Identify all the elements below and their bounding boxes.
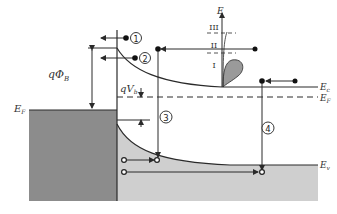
valence-band-region: [117, 124, 318, 201]
svg-text:2: 2: [142, 55, 147, 64]
conduction-band-label: Ec: [319, 82, 331, 93]
region-I-label: I: [212, 61, 215, 70]
band-diagram: qΦB qVb 1 2 3 4 E III II I EF Ec EF Ev: [0, 0, 337, 214]
builtin-potential-label: qVb: [120, 83, 138, 95]
energy-axis-label: E: [216, 6, 224, 16]
svg-text:1: 1: [133, 35, 138, 44]
electron-4-source: [293, 79, 298, 84]
electron-2: [132, 55, 138, 61]
hole-4-source: [122, 170, 127, 175]
electron-3-source: [253, 47, 258, 52]
hole-3-source: [122, 158, 127, 163]
electron-4: [259, 78, 265, 84]
svg-text:3: 3: [163, 113, 168, 123]
region-III-label: III: [209, 23, 218, 32]
electron-1: [123, 35, 129, 41]
semiconductor-fermi-label: EF: [319, 93, 332, 104]
metal-region: [29, 110, 117, 201]
electron-3: [155, 46, 161, 52]
electron-distribution: [223, 60, 243, 87]
svg-text:4: 4: [265, 124, 270, 134]
barrier-height-label: qΦB: [48, 68, 69, 83]
valence-band-label: Ev: [319, 160, 331, 171]
hole-3: [155, 158, 160, 163]
region-II-label: II: [211, 41, 217, 50]
hole-4: [260, 170, 265, 175]
metal-fermi-label: EF: [13, 103, 26, 115]
